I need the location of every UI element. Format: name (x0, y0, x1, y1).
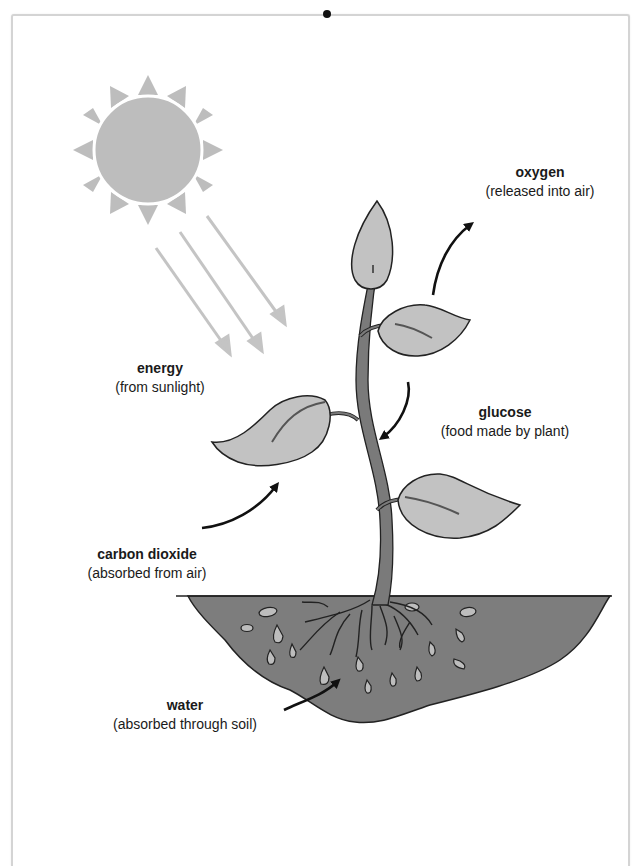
label-carbon-dioxide-term: carbon dioxide (67, 545, 227, 564)
oxygen-arrow (433, 225, 470, 295)
label-energy: energy (from sunlight) (100, 359, 220, 397)
label-glucose: glucose (food made by plant) (415, 403, 595, 441)
glucose-arrow (383, 382, 409, 437)
label-energy-desc: (from sunlight) (100, 378, 220, 397)
label-oxygen-desc: (released into air) (470, 182, 610, 201)
left-leaf (212, 396, 330, 466)
carbon-dioxide-arrow (202, 486, 276, 528)
label-water-desc: (absorbed through soil) (95, 715, 275, 734)
label-water: water (absorbed through soil) (95, 696, 275, 734)
sunlight-rays (156, 216, 285, 354)
label-carbon-dioxide: carbon dioxide (absorbed from air) (67, 545, 227, 583)
label-glucose-term: glucose (415, 403, 595, 422)
label-oxygen-term: oxygen (470, 163, 610, 182)
label-energy-term: energy (100, 359, 220, 378)
sun-icon (73, 75, 223, 225)
label-carbon-dioxide-desc: (absorbed from air) (67, 564, 227, 583)
top-leaf (352, 201, 393, 289)
upper-right-leaf (378, 305, 470, 356)
label-oxygen: oxygen (released into air) (470, 163, 610, 201)
label-water-term: water (95, 696, 275, 715)
lower-right-leaf (398, 474, 520, 538)
label-glucose-desc: (food made by plant) (415, 422, 595, 441)
